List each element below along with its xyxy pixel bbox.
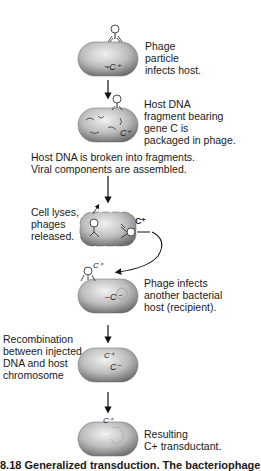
svg-text:C⁺: C⁺ (93, 261, 104, 270)
step-5-label: Phage infects another bacterial host (re… (144, 277, 222, 313)
step-4-label: Cell lyses, phages released. (31, 206, 79, 242)
cell-recipient: C⁺ –C⁻ (78, 261, 138, 313)
figure-caption: 8.18 Generalized transduction. The bacte… (0, 459, 260, 471)
step-6-label: Recombination between injected DNA and h… (3, 333, 82, 381)
step-1-label: Phage particle infects host. (145, 40, 201, 76)
svg-text:C⁺: C⁺ (135, 216, 147, 226)
cell-lysing: C⁺ (80, 206, 147, 246)
cell-transductant: C⁺ (78, 416, 138, 456)
cell-recombination: C⁺ C⁻ (78, 348, 138, 382)
svg-text:~C⁺: ~C⁺ (104, 62, 122, 72)
phage-icon (112, 95, 122, 110)
phage-icon (108, 25, 122, 42)
svg-text:C⁺: C⁺ (104, 351, 115, 360)
svg-text:–C⁻: –C⁻ (104, 292, 123, 302)
step-2-label: Host DNA fragment bearing gene C is pack… (144, 98, 236, 146)
cell-host-1: ~C⁺ (78, 25, 138, 76)
cell-host-2: C⁺ (78, 95, 138, 142)
svg-text:C⁻: C⁻ (110, 362, 122, 372)
svg-text:C⁺: C⁺ (120, 128, 132, 138)
svg-text:C⁺: C⁺ (103, 416, 114, 425)
step-3-label: Host DNA is broken into fragments. Viral… (31, 151, 195, 175)
step-7-label: Resulting C+ transductant. (144, 428, 221, 452)
